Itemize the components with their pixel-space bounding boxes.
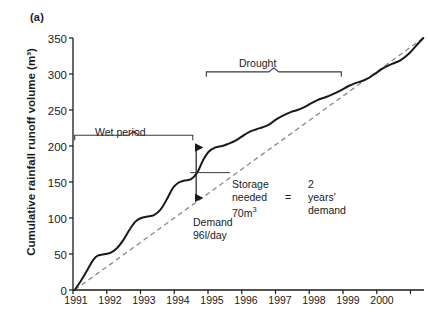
plot-area [0, 0, 428, 322]
wet-period-bracket [75, 131, 193, 140]
storage-measure-arrow [190, 147, 230, 197]
drought-bracket [206, 68, 341, 77]
figure-panel: (a) Cumulative rainfall runoff volume (m… [0, 0, 428, 322]
